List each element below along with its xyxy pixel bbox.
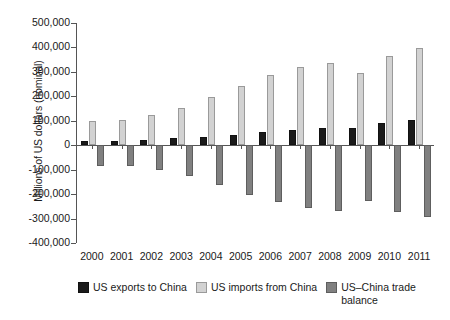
bar-group [345, 23, 375, 243]
bar-group [107, 23, 137, 243]
y-tick-label: 100,000 [32, 114, 70, 126]
y-axis-title: Millions of US dollars (nominal) [32, 21, 44, 241]
bar-balance [335, 145, 342, 211]
bar-balance [216, 145, 223, 185]
bar-balance [365, 145, 372, 200]
bar-imports [267, 75, 274, 145]
y-tick-label: 500,000 [32, 16, 70, 28]
bar-group [196, 23, 226, 243]
x-axis-label: 2009 [345, 250, 375, 262]
bar-exports [349, 128, 356, 145]
x-axis-label: 2006 [256, 250, 286, 262]
bar-balance [127, 145, 134, 165]
bar-balance [305, 145, 312, 208]
bar-exports [408, 120, 415, 145]
x-axis-label: 2001 [107, 250, 137, 262]
x-tick-mark [330, 145, 331, 149]
x-tick-mark [122, 145, 123, 149]
bar-exports [140, 140, 147, 145]
y-tick-label: -300,000 [29, 212, 70, 224]
bar-imports [178, 108, 185, 145]
x-axis-label: 2011 [404, 250, 434, 262]
bar-imports [327, 63, 334, 146]
x-axis-label: 2008 [315, 250, 345, 262]
bar-group [256, 23, 286, 243]
x-axis-label: 2003 [166, 250, 196, 262]
x-tick-mark [419, 145, 420, 149]
legend-swatch-balance [326, 282, 337, 293]
y-tick-mark [71, 219, 76, 220]
x-axis-label: 2007 [285, 250, 315, 262]
bar-group [315, 23, 345, 243]
legend-item: US–China trade balance [326, 281, 425, 306]
bar-exports [319, 128, 326, 145]
x-tick-mark [211, 145, 212, 149]
x-axis-label: 2002 [137, 250, 167, 262]
x-tick-mark [389, 145, 390, 149]
y-tick-mark [71, 47, 76, 48]
y-tick-label: -200,000 [29, 187, 70, 199]
bar-balance [246, 145, 253, 194]
x-axis-label: 2004 [196, 250, 226, 262]
legend-label: US–China trade balance [341, 281, 425, 306]
bar-balance [156, 145, 163, 170]
y-tick-mark [71, 145, 76, 146]
bar-exports [111, 141, 118, 146]
bar-balance [424, 145, 431, 217]
bar-imports [416, 48, 423, 146]
bar-imports [119, 120, 126, 145]
legend-item: US exports to China [78, 281, 187, 294]
plot-area: 500,000400,000300,000200,000100,0000-100… [76, 23, 434, 243]
x-tick-mark [241, 145, 242, 149]
y-tick-mark [71, 23, 76, 24]
bar-group [77, 23, 107, 243]
bar-balance [275, 145, 282, 202]
bar-group [404, 23, 434, 243]
bar-exports [259, 132, 266, 145]
bar-balance [97, 145, 104, 165]
x-axis-label: 2000 [77, 250, 107, 262]
bar-balance [186, 145, 193, 175]
bar-group [226, 23, 256, 243]
bar-imports [238, 86, 245, 146]
bar-imports [297, 67, 304, 146]
x-tick-mark [92, 145, 93, 149]
bar-imports [386, 56, 393, 145]
y-tick-mark [71, 194, 76, 195]
x-tick-mark [360, 145, 361, 149]
y-tick-label: 0 [64, 138, 70, 150]
bar-imports [357, 73, 364, 145]
bar-group [285, 23, 315, 243]
bar-group [137, 23, 167, 243]
x-axis-labels: 2000200120022003200420052006200720082009… [77, 250, 434, 262]
x-tick-mark [151, 145, 152, 149]
bar-imports [208, 97, 215, 145]
bar-group [375, 23, 405, 243]
legend-swatch-imports [196, 282, 207, 293]
bar-chart: Millions of US dollars (nominal) 500,000… [0, 0, 450, 320]
y-tick-label: 400,000 [32, 40, 70, 52]
bar-imports [89, 121, 96, 145]
y-tick-mark [71, 121, 76, 122]
y-tick-mark [71, 72, 76, 73]
y-tick-mark [71, 170, 76, 171]
x-axis-label: 2010 [375, 250, 405, 262]
bar-exports [289, 130, 296, 145]
x-tick-mark [300, 145, 301, 149]
bar-exports [378, 123, 385, 145]
legend-label: US imports from China [211, 281, 317, 294]
bar-balance [394, 145, 401, 212]
y-tick-label: 200,000 [32, 89, 70, 101]
bar-groups [77, 23, 434, 243]
y-tick-mark [71, 96, 76, 97]
y-tick-mark [71, 243, 76, 244]
legend-item: US imports from China [196, 281, 317, 294]
y-tick-label: 300,000 [32, 65, 70, 77]
bar-exports [230, 135, 237, 145]
y-tick-label: -400,000 [29, 236, 70, 248]
bar-exports [81, 141, 88, 145]
bar-group [166, 23, 196, 243]
bar-exports [200, 137, 207, 145]
x-axis-label: 2005 [226, 250, 256, 262]
legend-swatch-exports [78, 282, 89, 293]
